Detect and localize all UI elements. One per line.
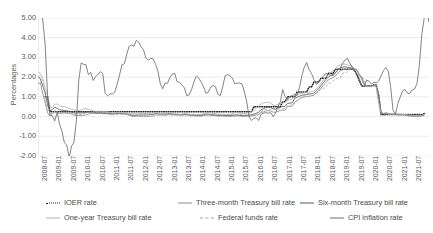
x-axis-tick-label: 2010-01 bbox=[84, 156, 91, 181]
series-line-six-month-treasury-bill-rate bbox=[38, 67, 424, 116]
x-axis-tick-label: 2021-01 bbox=[401, 156, 408, 181]
legend-ioer-rate[interactable]: IOER rate bbox=[46, 198, 97, 207]
y-axis-tick-label: 2.00 bbox=[2, 73, 36, 80]
x-axis-tick-label: 2011-01 bbox=[113, 156, 120, 180]
x-axis-tick-label: 2021-07 bbox=[415, 156, 422, 181]
legend-one-year-treasury-bill-rate[interactable]: One-year Treasury bill rate bbox=[46, 213, 152, 222]
x-axis-tick-label: 2009-07 bbox=[70, 156, 77, 181]
x-axis-tick-label: 2014-01 bbox=[199, 156, 206, 181]
y-axis-tick-label: 5.00 bbox=[2, 14, 36, 21]
legend-six-month-treasury-bill-rate[interactable]: Six-month Treasury bill rate bbox=[300, 198, 408, 207]
legend-label: Three-month Treasury bill rate bbox=[196, 198, 295, 207]
x-axis-tick-label: 2017-01 bbox=[286, 156, 293, 181]
plot-area bbox=[38, 18, 429, 156]
series-line-cpi-inflation-rate bbox=[38, 18, 429, 156]
x-axis-tick-label: 2014-07 bbox=[214, 156, 221, 181]
x-axis-tick-label: 2010-07 bbox=[99, 156, 106, 181]
x-axis-tick-label: 2018-07 bbox=[329, 156, 336, 181]
x-axis-tick-label: 2018-01 bbox=[314, 156, 321, 181]
legend-swatch-icon bbox=[46, 214, 60, 221]
y-axis-tick-label: 0.00 bbox=[2, 113, 36, 120]
y-axis-tick-label: -1.00 bbox=[2, 133, 36, 140]
y-axis-tick-label: 1.00 bbox=[2, 93, 36, 100]
series-line-one-year-treasury-bill-rate bbox=[38, 64, 424, 115]
legend-label: Six-month Treasury bill rate bbox=[318, 198, 408, 207]
x-axis-tick-label: 2019-01 bbox=[343, 156, 350, 181]
x-axis-tick-label: 2011-07 bbox=[127, 156, 134, 180]
x-axis-tick-label: 2019-07 bbox=[358, 156, 365, 181]
x-axis-tick-label: 2016-07 bbox=[271, 156, 278, 181]
x-axis-tick-label: 2013-07 bbox=[185, 156, 192, 181]
legend-swatch-icon bbox=[330, 214, 344, 221]
x-axis-tick-label: 2008-07 bbox=[41, 156, 48, 181]
legend-swatch-icon bbox=[300, 199, 314, 206]
legend-swatch-icon bbox=[178, 199, 192, 206]
legend-label: Federal funds rate bbox=[218, 213, 278, 222]
x-axis-tick-label: 2020-07 bbox=[386, 156, 393, 181]
legend-swatch-icon bbox=[46, 199, 60, 206]
x-axis-tick-label: 2017-07 bbox=[300, 156, 307, 181]
x-axis-tick-label: 2009-01 bbox=[55, 156, 62, 181]
legend-cpi-inflation-rate[interactable]: CPI inflation rate bbox=[330, 213, 403, 222]
plot-svg bbox=[38, 18, 429, 156]
legend-label: One-year Treasury bill rate bbox=[64, 213, 152, 222]
x-axis-tick-label: 2013-01 bbox=[171, 156, 178, 181]
y-axis-tick-label: 3.00 bbox=[2, 54, 36, 61]
legend-swatch-icon bbox=[200, 214, 214, 221]
legend-row-bottom: One-year Treasury bill rateFederal funds… bbox=[0, 213, 433, 227]
x-axis-tick-label: 2015-01 bbox=[228, 156, 235, 181]
legend-label: CPI inflation rate bbox=[348, 213, 403, 222]
x-axis-tick-label: 2012-01 bbox=[142, 156, 149, 181]
legend-label: IOER rate bbox=[64, 198, 97, 207]
legend-row-top: IOER rateThree-month Treasury bill rateS… bbox=[0, 198, 433, 212]
y-axis-tick-labels: 5.004.003.002.001.000.00-1.00-2.00 bbox=[0, 18, 36, 156]
legend-three-month-treasury-bill-rate[interactable]: Three-month Treasury bill rate bbox=[178, 198, 295, 207]
x-axis-tick-labels: 2008-072009-012009-072010-012010-072011-… bbox=[38, 156, 429, 198]
series-line-ioer-rate bbox=[45, 69, 424, 114]
line-chart: Percentages 5.004.003.002.001.000.00-1.0… bbox=[0, 0, 433, 233]
x-axis-tick-label: 2012-07 bbox=[156, 156, 163, 181]
y-axis-tick-label: 4.00 bbox=[2, 34, 36, 41]
y-axis-tick-label: -2.00 bbox=[2, 152, 36, 159]
x-axis-tick-label: 2015-07 bbox=[242, 156, 249, 181]
legend-federal-funds-rate[interactable]: Federal funds rate bbox=[200, 213, 278, 222]
x-axis-tick-label: 2016-01 bbox=[257, 156, 264, 181]
chart-legend: IOER rateThree-month Treasury bill rateS… bbox=[0, 198, 433, 233]
x-axis-tick-label: 2020-01 bbox=[372, 156, 379, 181]
